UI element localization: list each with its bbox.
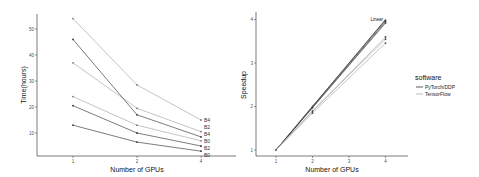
figure: 50 40 30 20 10 1 2 4 Number of GPUs Time… [0, 0, 479, 177]
y-ticks: 50 40 30 20 10 [29, 27, 37, 136]
end-label: B2 [204, 145, 210, 151]
linear-annotation: Linear [370, 17, 383, 22]
end-label: B0 [204, 138, 210, 144]
speedup-chart: 1 2 3 4 1 2 3 4 Number of GPUs Speedup [240, 12, 408, 173]
legend-label-pytorch: PyTorch/DDP [425, 84, 456, 90]
y-axis-label: Speedup [240, 71, 248, 99]
end-labels: B4 B2 B4 B0 B2 B0 [204, 117, 210, 158]
y-tick-label: 20 [29, 105, 35, 110]
y-axis-label: Time(hours) [20, 66, 28, 103]
series-b2-tensorflow [73, 63, 201, 132]
series-b4-pytorch [73, 39, 201, 136]
x-tick-label: 3 [348, 159, 351, 164]
x-tick-label: 2 [136, 159, 139, 164]
end-label: B2 [204, 124, 210, 130]
series-b0-tensorflow [73, 97, 201, 141]
end-label: B4 [204, 117, 210, 123]
y-tick-label: 1 [250, 148, 253, 153]
x-axis-label: Number of GPUs [110, 166, 164, 173]
x-tick-label: 4 [384, 159, 387, 164]
y-ticks: 1 2 3 4 [250, 17, 256, 153]
y-tick-label: 4 [250, 17, 253, 22]
series-b4-tensorflow [276, 37, 386, 150]
time-chart: 50 40 30 20 10 1 2 4 Number of GPUs Time… [20, 14, 236, 173]
y-tick-label: 40 [29, 53, 35, 58]
legend: software PyTorch/DDP TensorFlow [415, 74, 456, 97]
x-tick-label: 4 [200, 159, 203, 164]
speedup-series [276, 20, 386, 151]
y-tick-label: 2 [250, 104, 253, 109]
x-tick-label: 1 [72, 159, 75, 164]
series-b4-tensorflow [73, 19, 201, 120]
end-label: B0 [204, 152, 210, 158]
series-b0-pytorch [73, 125, 201, 151]
series-b4-pytorch [276, 20, 386, 150]
y-tick-label: 30 [29, 79, 35, 84]
end-label: B4 [204, 131, 210, 137]
y-tick-label: 50 [29, 27, 35, 32]
y-tick-label: 3 [250, 61, 253, 66]
x-tick-label: 2 [311, 159, 314, 164]
series-b0-tensorflow [276, 43, 386, 150]
x-axis-label: Number of GPUs [305, 166, 359, 173]
x-ticks: 1 2 3 4 [275, 156, 388, 164]
y-tick-label: 10 [29, 131, 35, 136]
x-ticks: 1 2 4 [72, 156, 203, 164]
legend-label-tensorflow: TensorFlow [425, 91, 451, 97]
x-tick-label: 1 [275, 159, 278, 164]
legend-title: software [415, 74, 442, 81]
